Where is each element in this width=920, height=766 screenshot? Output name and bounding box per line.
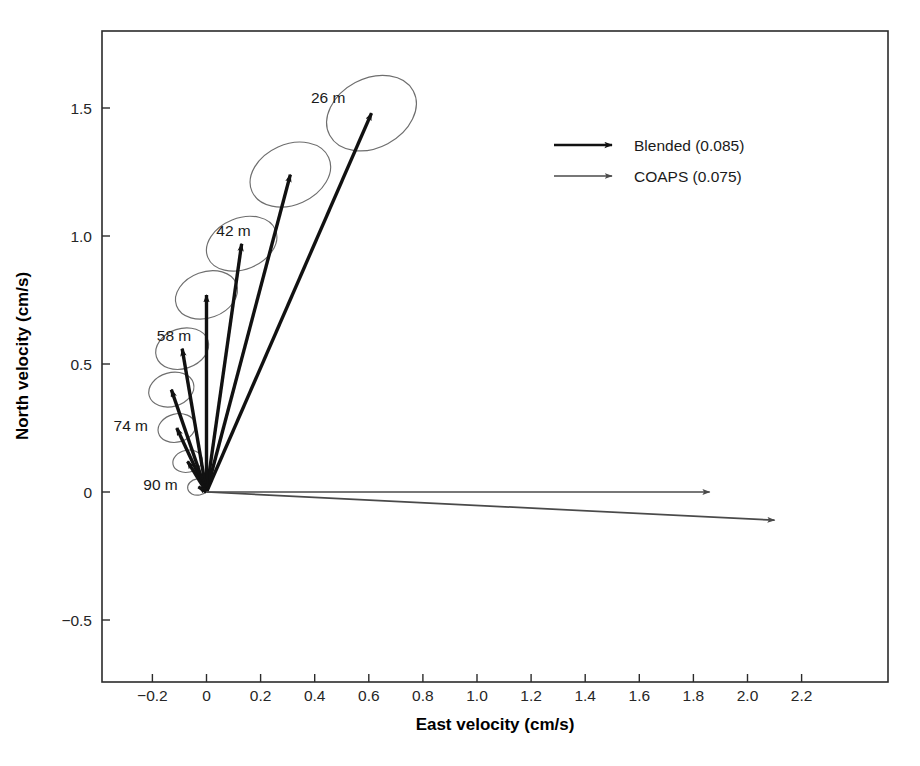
- depth-annotation-label: 26 m: [311, 89, 345, 106]
- y-tick-label: 1.0: [70, 228, 92, 245]
- x-tick-label: 1.2: [520, 687, 542, 704]
- y-axis-title: North velocity (cm/s): [13, 272, 32, 440]
- x-axis-title: East velocity (cm/s): [416, 715, 575, 734]
- x-tick-label: 1.4: [574, 687, 596, 704]
- depth-annotation-label: 74 m: [114, 417, 148, 434]
- y-tick-label: 1.5: [70, 100, 92, 117]
- legend-label: Blended (0.085): [634, 137, 744, 154]
- y-tick-label: −0.5: [61, 612, 92, 629]
- velocity-vector-plot: 26 m42 m58 m74 m90 m −0.200.20.40.60.81.…: [0, 0, 920, 766]
- depth-annotation-label: 42 m: [216, 222, 250, 239]
- x-tick-label: −0.2: [137, 687, 168, 704]
- x-tick-label: 1.0: [466, 687, 488, 704]
- depth-annotation-label: 58 m: [157, 327, 191, 344]
- x-tick-label: 1.6: [629, 687, 651, 704]
- depth-annotation-label: 90 m: [143, 476, 177, 493]
- y-tick-label: 0.5: [70, 356, 92, 373]
- x-tick-label: 0.2: [250, 687, 272, 704]
- legend-label: COAPS (0.075): [634, 168, 742, 185]
- x-tick-label: 0.4: [304, 687, 326, 704]
- x-tick-label: 0.8: [412, 687, 434, 704]
- x-tick-label: 0.6: [358, 687, 380, 704]
- y-tick-label: 0: [83, 484, 92, 501]
- plot-background: [0, 0, 920, 766]
- velocity-vector-figure: 26 m42 m58 m74 m90 m −0.200.20.40.60.81.…: [0, 0, 920, 766]
- x-tick-label: 1.8: [683, 687, 705, 704]
- x-tick-label: 2.0: [737, 687, 759, 704]
- x-tick-label: 0: [202, 687, 211, 704]
- x-tick-label: 2.2: [791, 687, 813, 704]
